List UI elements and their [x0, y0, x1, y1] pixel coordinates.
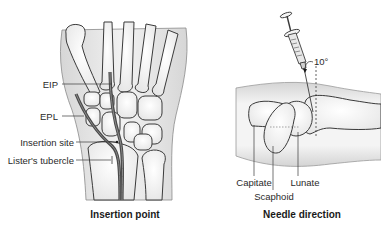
- caption-insertion-point: Insertion point: [90, 209, 160, 220]
- insertion-site-marker: [116, 141, 118, 143]
- label-listers-tubercle: Lister's tubercle: [8, 155, 74, 166]
- label-eip: EIP: [43, 79, 58, 90]
- label-scaphoid: Scaphoid: [254, 191, 294, 202]
- label-epl: EPL: [40, 111, 58, 122]
- radius-bone: [88, 141, 138, 200]
- lateral-wrist-illustration: [236, 66, 381, 166]
- label-insertion-site: Insertion site: [20, 137, 74, 148]
- hand-illustration: [60, 22, 187, 200]
- angle-arc: [305, 61, 313, 70]
- label-lunate: Lunate: [290, 177, 319, 188]
- caption-needle-direction: Needle direction: [263, 209, 341, 220]
- label-capitate: Capitate: [236, 177, 271, 188]
- wrist-diagram: EIP EPL Insertion site Lister's tubercle…: [0, 0, 381, 227]
- ulna-bone: [142, 150, 165, 200]
- angle-arrow-icon: [303, 69, 307, 73]
- label-angle: 10°: [314, 56, 329, 67]
